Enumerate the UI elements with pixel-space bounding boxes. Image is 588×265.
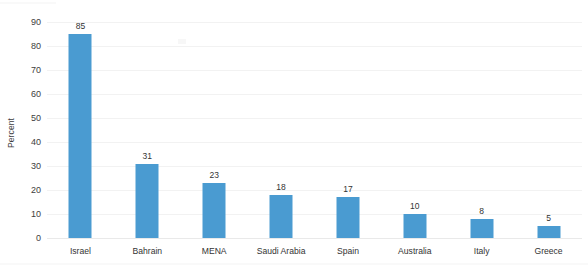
bar-group[interactable]: 18Saudi Arabia <box>248 22 315 238</box>
x-axis-category-label: Italy <box>474 246 490 256</box>
y-axis-title-label: Percent <box>6 118 16 148</box>
bar[interactable] <box>537 226 560 238</box>
bar-group[interactable]: 8Italy <box>448 22 515 238</box>
y-axis-tick-label: 80 <box>31 41 41 51</box>
x-axis-category-label: MENA <box>202 246 227 256</box>
x-axis-category-label: Spain <box>337 246 359 256</box>
bar[interactable] <box>270 195 293 238</box>
bar-value-label: 85 <box>76 21 85 31</box>
bar-group[interactable]: 17Spain <box>315 22 382 238</box>
y-axis-tick-label: 90 <box>31 17 41 27</box>
bar-value-label: 5 <box>546 213 551 223</box>
bars-layer: 85Israel31Bahrain23MENA18Saudi Arabia17S… <box>47 22 582 238</box>
y-axis-tick-label: 10 <box>31 209 41 219</box>
bar-value-label: 8 <box>479 206 484 216</box>
bar-group[interactable]: 23MENA <box>181 22 248 238</box>
bar-chart: Percent 0102030405060708090 85Israel31Ba… <box>0 0 588 265</box>
x-axis-category-label: Australia <box>398 246 431 256</box>
bar-group[interactable]: 5Greece <box>515 22 582 238</box>
bar-value-label: 10 <box>410 201 419 211</box>
bar-group[interactable]: 31Bahrain <box>114 22 181 238</box>
y-axis-tick-label: 60 <box>31 89 41 99</box>
y-axis-tick-label: 0 <box>36 233 41 243</box>
gridline <box>47 238 582 239</box>
plot-area: 0102030405060708090 85Israel31Bahrain23M… <box>47 22 582 238</box>
bar-group[interactable]: 10Australia <box>381 22 448 238</box>
bar[interactable] <box>403 214 426 238</box>
y-axis-tick-label: 20 <box>31 185 41 195</box>
bar[interactable] <box>336 197 359 238</box>
x-axis-category-label: Israel <box>70 246 91 256</box>
bar-value-label: 23 <box>209 170 218 180</box>
bar[interactable] <box>69 34 92 238</box>
y-axis-tick-label: 70 <box>31 65 41 75</box>
bar[interactable] <box>203 183 226 238</box>
bar-value-label: 17 <box>343 184 352 194</box>
x-axis-category-label: Saudi Arabia <box>257 246 306 256</box>
y-axis-tick-label: 40 <box>31 137 41 147</box>
y-axis-title: Percent <box>2 0 20 265</box>
bar-value-label: 31 <box>143 151 152 161</box>
bar-value-label: 18 <box>276 182 285 192</box>
x-axis-category-label: Bahrain <box>133 246 163 256</box>
bar-group[interactable]: 85Israel <box>47 22 114 238</box>
x-axis-category-label: Greece <box>534 246 562 256</box>
y-axis-tick-label: 30 <box>31 161 41 171</box>
y-axis-tick-label: 50 <box>31 113 41 123</box>
bar[interactable] <box>136 164 159 238</box>
bar[interactable] <box>470 219 493 238</box>
